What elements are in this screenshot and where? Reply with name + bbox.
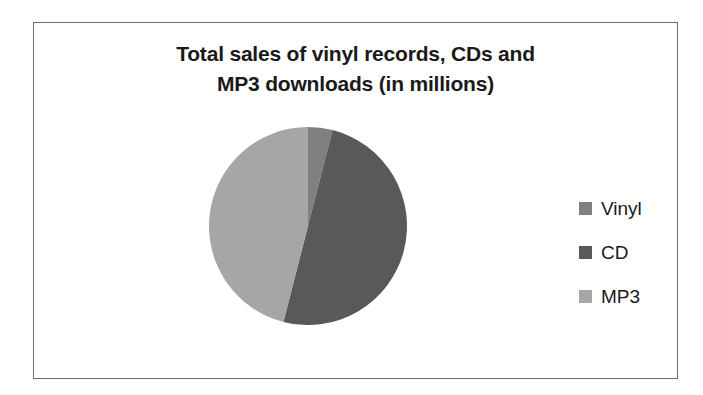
pie-slice-group (209, 127, 407, 325)
pie-slice-vinyl[interactable] (308, 127, 333, 226)
pie-slice-cd[interactable] (283, 130, 407, 325)
legend-item-cd[interactable]: CD (579, 230, 675, 274)
legend-label-mp3: MP3 (601, 287, 640, 306)
chart-legend: Vinyl CD MP3 (579, 186, 675, 318)
legend-swatch-cd (579, 246, 592, 259)
legend-label-vinyl: Vinyl (601, 199, 642, 218)
chart-title: Total sales of vinyl records, CDs and MP… (34, 39, 677, 99)
pie-slice-mp3[interactable] (209, 127, 308, 322)
legend-item-vinyl[interactable]: Vinyl (579, 186, 675, 230)
legend-swatch-mp3 (579, 290, 592, 303)
legend-swatch-vinyl (579, 202, 592, 215)
pie-chart-svg (208, 126, 408, 326)
legend-label-cd: CD (601, 243, 628, 262)
legend-item-mp3[interactable]: MP3 (579, 274, 675, 318)
chart-frame: Total sales of vinyl records, CDs and MP… (33, 22, 678, 379)
